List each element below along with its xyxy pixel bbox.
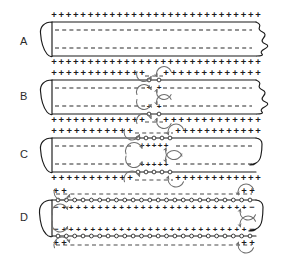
charge-plus-inside: + xyxy=(198,225,203,234)
charge-plus: + xyxy=(248,172,254,183)
charge-plus-inside: + xyxy=(119,225,124,234)
charge-plus: + xyxy=(59,125,65,136)
charge-plus: + xyxy=(161,56,167,67)
charge-plus-inside: + xyxy=(134,203,139,212)
ion-channel xyxy=(73,234,77,238)
charge-plus-inside: + xyxy=(227,225,232,234)
ion-channel xyxy=(173,198,177,202)
panel-label-B: B xyxy=(20,90,28,102)
ion-channel xyxy=(73,198,77,202)
charge-plus: + xyxy=(226,125,232,136)
charge-plus: + xyxy=(248,67,254,78)
charge-plus: + xyxy=(233,125,239,136)
charge-plus: + xyxy=(95,67,101,78)
charge-plus: + xyxy=(104,125,110,136)
charge-plus-inside: + xyxy=(152,141,157,150)
charge-plus-inside: + xyxy=(184,203,189,212)
charge-plus-inside: + xyxy=(220,225,225,234)
charge-plus: + xyxy=(51,125,57,136)
charge-plus-inside: + xyxy=(134,225,139,234)
ion-channel xyxy=(198,198,202,202)
ion-channel xyxy=(181,198,185,202)
charge-plus-inside: + xyxy=(69,203,74,212)
charge-plus: + xyxy=(233,56,239,67)
charge-plus: + xyxy=(66,125,72,136)
ion-channel xyxy=(248,198,252,202)
charge-plus: + xyxy=(182,56,188,67)
ion-channel xyxy=(215,234,219,238)
charge-plus: + xyxy=(59,67,65,78)
charge-plus: + xyxy=(186,114,192,125)
charge-plus-inside: + xyxy=(126,203,131,212)
charge-plus: + xyxy=(80,56,86,67)
charge-plus: + xyxy=(161,9,167,20)
charge-plus: + xyxy=(219,9,225,20)
charge-plus: + xyxy=(182,9,188,20)
panel-label-C: C xyxy=(20,148,28,160)
ion-channel xyxy=(231,198,235,202)
ion-channel xyxy=(152,136,156,140)
ion-channel xyxy=(165,198,169,202)
ion-channel xyxy=(123,234,127,238)
charge-plus: + xyxy=(139,56,145,67)
charge-plus: + xyxy=(73,67,79,78)
charge-plus-inside: + xyxy=(213,203,218,212)
charge-plus-inside: + xyxy=(177,225,182,234)
charge-plus-inside: + xyxy=(191,225,196,234)
charge-plus: + xyxy=(202,67,208,78)
ion-channel xyxy=(152,170,156,174)
charge-plus: + xyxy=(153,56,159,67)
charge-plus: + xyxy=(127,125,133,136)
charge-plus: + xyxy=(175,172,181,183)
charge-plus: + xyxy=(225,67,231,78)
charge-plus: + xyxy=(225,114,231,125)
ion-channel xyxy=(81,198,85,202)
ion-channel xyxy=(181,234,185,238)
charge-plus-inside: + xyxy=(90,225,95,234)
charge-plus: + xyxy=(51,114,57,125)
charge-plus: + xyxy=(51,67,57,78)
charge-plus-inside: + xyxy=(242,225,247,234)
charge-plus-inside: + xyxy=(184,225,189,234)
ion-channel xyxy=(206,198,210,202)
charge-plus-inside: + xyxy=(147,83,152,92)
charge-plus: + xyxy=(125,114,131,125)
charge-plus: + xyxy=(95,114,101,125)
ion-channel xyxy=(231,234,235,238)
panel-label-A: A xyxy=(20,35,28,47)
charge-plus-inside: + xyxy=(112,225,117,234)
charge-plus: + xyxy=(194,114,200,125)
charge-plus: + xyxy=(59,9,65,20)
charge-plus: + xyxy=(73,56,79,67)
charge-plus: + xyxy=(190,9,196,20)
charge-plus-inside: + xyxy=(157,102,162,111)
ion-channel xyxy=(173,234,177,238)
charge-plus: + xyxy=(240,67,246,78)
charge-plus: + xyxy=(112,125,118,136)
ion-channel xyxy=(98,234,102,238)
ion-channel xyxy=(140,234,144,238)
charge-plus-inside: + xyxy=(206,203,211,212)
charge-plus: + xyxy=(197,172,203,183)
charge-plus: + xyxy=(51,56,57,67)
charge-plus: + xyxy=(89,172,95,183)
ion-channel xyxy=(248,234,252,238)
charge-plus: + xyxy=(81,114,87,125)
charge-plus-inside: + xyxy=(146,160,151,169)
charge-plus-inside: + xyxy=(242,203,247,212)
ion-channel xyxy=(215,198,219,202)
panel-label-D: D xyxy=(20,211,28,223)
charge-plus: + xyxy=(110,9,116,20)
charge-plus: + xyxy=(255,125,261,136)
ion-channel xyxy=(157,78,161,82)
charge-plus: + xyxy=(204,9,210,20)
charge-plus-inside: + xyxy=(148,225,153,234)
charge-plus-inside: + xyxy=(198,203,203,212)
charge-plus: + xyxy=(197,56,203,67)
charge-plus: + xyxy=(194,67,200,78)
charge-plus: + xyxy=(197,125,203,136)
charge-plus: + xyxy=(248,56,254,67)
charge-plus: + xyxy=(66,56,72,67)
figure-canvas: A +++++++++++++++++++++++++++++ ++++++++… xyxy=(0,0,284,257)
ion-channel xyxy=(223,198,227,202)
